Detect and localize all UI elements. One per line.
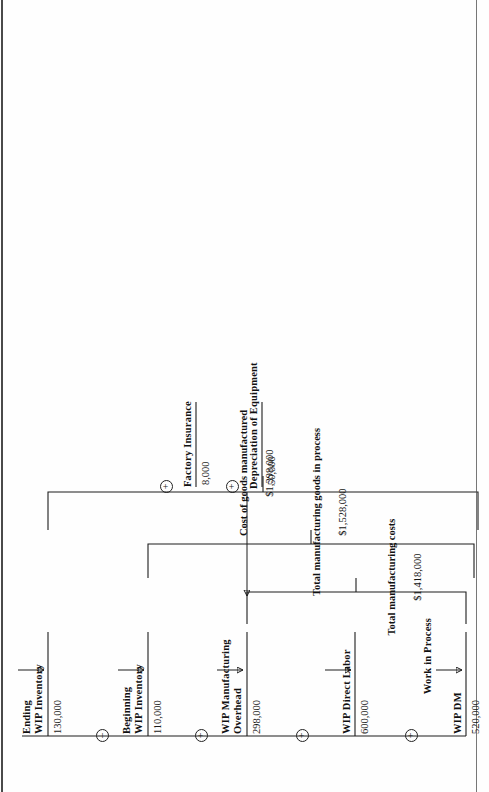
operator-plus-factory-insurance: + — [160, 480, 173, 493]
account-value-wip-direct-labor: 600,000 — [359, 674, 370, 734]
cost-of-goods-manufactured-label: Cost of goods manufactured — [238, 410, 249, 536]
account-label-wip-direct-labor: WIP Direct Labor — [341, 624, 353, 734]
account-value-wip-dm: 520,000 — [470, 674, 481, 734]
total-goods-in-process-label: Total manufacturing goods in process — [311, 428, 322, 596]
account-label-wip-dm: WIP DM — [452, 634, 464, 734]
cost-of-goods-manufactured: Cost of goods manufactured $1,398,000 — [224, 368, 276, 578]
total-goods-in-process: Total manufacturing goods in process $1,… — [297, 402, 349, 622]
operator-plus-dm-dl: + — [405, 729, 418, 742]
account-value-beginning-wip-inventory: 110,000 — [152, 674, 163, 734]
operator-minus-beginning-ending: – — [96, 729, 109, 742]
account-value-ending-wip-inventory: 130,000 — [52, 674, 63, 734]
cost-of-goods-manufactured-value: $1,398,000 — [264, 449, 275, 496]
scan-edge-top — [1, 0, 3, 792]
total-manufacturing-costs: Total manufacturing costs $1,418,000 — [372, 492, 424, 662]
account-label-ending-wip-inventory: Ending WIP Inventory — [21, 616, 45, 734]
account-label-beginning-wip-inventory: Beginning WIP Inventory — [121, 616, 145, 734]
operator-plus-moh-beginning: + — [195, 729, 208, 742]
total-manufacturing-costs-label: Total manufacturing costs — [386, 519, 397, 636]
input-value-factory-insurance: 8,000 — [200, 425, 211, 485]
operator-plus-dl-moh: + — [296, 729, 309, 742]
diagram-canvas: Work in Process WIP DM 520,000 WIP Direc… — [0, 0, 489, 792]
account-value-wip-manufacturing-overhead: 298,000 — [251, 674, 262, 734]
account-label-wip-manufacturing-overhead: WIP Manufacturing Overhead — [220, 612, 244, 734]
input-label-factory-insurance: Factory Insurance — [182, 391, 194, 487]
total-manufacturing-costs-value: $1,418,000 — [412, 553, 423, 600]
total-goods-in-process-value: $1,528,000 — [337, 488, 348, 535]
